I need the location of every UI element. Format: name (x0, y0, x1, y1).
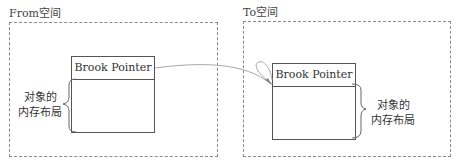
forwarding-arrow (155, 65, 271, 84)
from-brace-icon (63, 79, 76, 132)
diagram-connectors (0, 0, 457, 167)
self-pointer-loop (256, 62, 272, 84)
to-brace-icon (352, 84, 366, 138)
